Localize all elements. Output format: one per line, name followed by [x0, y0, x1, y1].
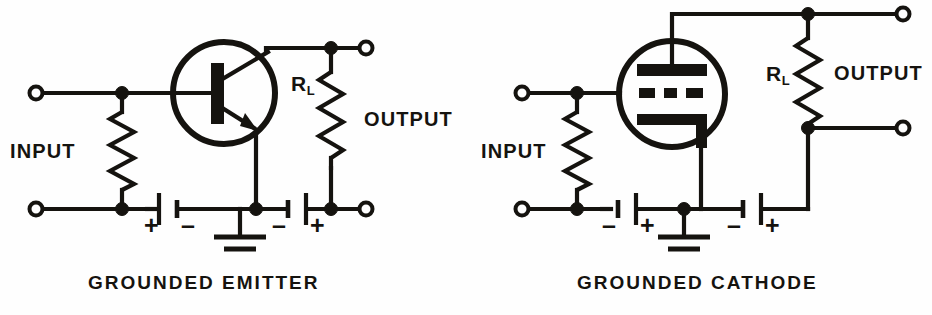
caption-grounded-emitter: GROUNDED EMITTER — [88, 272, 320, 294]
output-bottom-terminal[interactable] — [360, 203, 373, 216]
plate-node — [802, 8, 815, 21]
input-resistor — [110, 112, 134, 190]
load-resistor-label-right: RL — [766, 62, 789, 86]
collector-node — [325, 42, 338, 55]
grounded-cathode-circuit — [516, 8, 910, 250]
tube-grid-dash-2 — [664, 88, 677, 98]
collector-top-rail — [266, 48, 331, 52]
transistor-collector-lead — [224, 52, 268, 78]
load-resistor — [796, 38, 820, 124]
load-resistor-letter: R — [291, 72, 306, 95]
output-top-terminal[interactable] — [897, 8, 910, 21]
output-top-terminal[interactable] — [360, 42, 373, 55]
input-bottom-node — [571, 203, 584, 216]
output-label-left: OUTPUT — [364, 108, 453, 131]
bias-battery-plus-sign-left: + — [144, 213, 159, 238]
input-top-terminal[interactable] — [516, 87, 529, 100]
supply-battery-plus-sign-left: + — [310, 213, 325, 238]
output-tap-node — [802, 122, 815, 135]
input-top-node — [116, 87, 129, 100]
load-resistor-letter: R — [766, 62, 781, 85]
load-resistor-label-left: RL — [291, 72, 314, 96]
caption-grounded-cathode: GROUNDED CATHODE — [577, 272, 818, 294]
cathode-ground-node — [678, 203, 691, 216]
load-resistor-subscript: L — [782, 73, 790, 88]
circuit-schematic-canvas — [0, 0, 932, 315]
input-bottom-node — [116, 203, 129, 216]
output-bottom-terminal[interactable] — [897, 122, 910, 135]
supply-battery-minus-sign-right: – — [727, 213, 741, 238]
input-label-right: INPUT — [481, 140, 547, 163]
bias-battery-plus-sign-right: + — [640, 213, 655, 238]
circuit-figure: INPUT RL OUTPUT + – – + GROUNDED EMITTER… — [0, 0, 932, 315]
input-top-terminal[interactable] — [30, 87, 43, 100]
input-bottom-terminal[interactable] — [516, 203, 529, 216]
supply-battery-minus-sign-left: – — [272, 213, 286, 238]
tube-grid-dash-1 — [639, 88, 655, 98]
tube-grid-dash-3 — [686, 88, 703, 98]
emitter-ground-node — [250, 203, 263, 216]
transistor-base-bar — [211, 63, 224, 124]
plate-top-rail — [672, 14, 808, 64]
input-bottom-terminal[interactable] — [30, 203, 43, 216]
input-label-left: INPUT — [10, 140, 76, 163]
load-resistor — [319, 72, 343, 158]
input-top-node — [571, 87, 584, 100]
load-bottom-node — [325, 203, 338, 216]
output-label-right: OUTPUT — [834, 62, 923, 85]
input-resistor — [565, 112, 589, 190]
bias-battery-minus-sign-right: – — [602, 213, 616, 238]
bias-battery-minus-sign-left: – — [181, 213, 195, 238]
load-resistor-subscript: L — [307, 83, 315, 98]
supply-battery-plus-sign-right: + — [765, 213, 780, 238]
